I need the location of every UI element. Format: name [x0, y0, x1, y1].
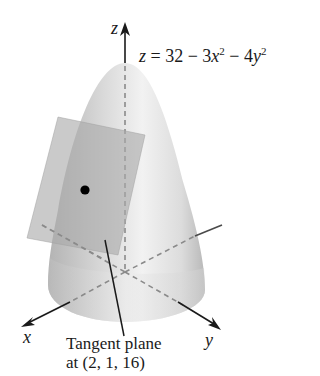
y-axis [178, 302, 221, 330]
y-axis-label: y [205, 330, 213, 351]
x-axis [21, 302, 70, 327]
equation-exp-y: 2 [261, 45, 267, 57]
tangent-plane-label-line1: Tangent plane [66, 334, 162, 353]
figure-canvas: z x y z = 32 − 3x2 − 4y2 Tangent plane a… [0, 0, 320, 376]
equation-term-2: − 4 [225, 46, 253, 66]
tangency-point [80, 185, 89, 194]
tangent-plane-label-line2: at (2, 1, 16) [66, 353, 162, 372]
z-axis-label: z [111, 18, 118, 39]
equation-term-1: 32 − 3 [165, 46, 211, 66]
tangent-plane-label: Tangent plane at (2, 1, 16) [66, 334, 162, 372]
equation-lhs: z [139, 46, 146, 66]
surface-equation: z = 32 − 3x2 − 4y2 [139, 45, 266, 67]
x-axis-label: x [23, 327, 31, 348]
z-axis [120, 22, 130, 63]
y-axis-negative-visible [195, 225, 222, 236]
equation-var-y: y [253, 46, 261, 66]
